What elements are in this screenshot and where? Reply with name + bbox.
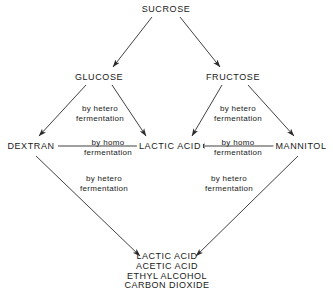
edge-label-glucose-lactic-acid: by homo fermentation [84,138,132,157]
edge-label-line2: fermentation [214,113,262,123]
node-dextran: DEXTRAN [5,141,56,151]
edge-label-line2: fermentation [84,147,132,157]
edge-label-fructose-lactic-acid: by hetero fermentation [214,104,262,123]
node-glucose: GLUCOSE [73,72,125,82]
node-fructose: FRUCTOSE [204,72,262,82]
edge-label-line1: by hetero [80,174,128,184]
edge-label-line2: fermentation [214,147,262,157]
product-line: CARBON DIOXIDE [124,281,209,291]
node-mannitol: MANNITOL [273,141,328,151]
edge-label-line2: fermentation [76,113,124,123]
edge-label-line2: fermentation [205,183,253,193]
edge-label-line2: fermentation [80,183,128,193]
edge-label-mannitol-lactic-acid: by homo fermentation [214,138,262,157]
edge-label-line1: by hetero [76,104,124,114]
edge-label-glucose-dextran: by hetero fermentation [76,104,124,123]
node-lactic-acid: LACTIC ACID [137,141,203,151]
edge-sucrose-to-fructose [180,17,220,67]
edge-label-line1: by hetero [214,104,262,114]
edge-label-dextran-products: by hetero fermentation [80,174,128,193]
pathway-diagram: SUCROSE GLUCOSE FRUCTOSE DEXTRAN LACTIC … [0,0,333,293]
edge-label-line1: by homo [214,138,262,148]
edge-label-line1: by hetero [205,174,253,184]
edge-label-line1: by homo [84,138,132,148]
node-products: LACTIC ACID ACETIC ACID ETHYL ALCOHOL CA… [124,252,209,291]
edge-label-mannitol-products: by hetero fermentation [205,174,253,193]
edge-mannitol-to-products [196,156,298,256]
node-sucrose: SUCROSE [140,4,193,14]
edge-sucrose-to-glucose [113,17,152,67]
edge-dextran-to-products [36,156,140,256]
